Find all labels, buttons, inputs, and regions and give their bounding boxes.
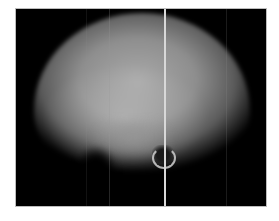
scan-artifact-line [109, 9, 110, 206]
scan-artifact-line [86, 9, 87, 206]
scan-artifact-line [226, 9, 227, 206]
scan-artifact-line-bright [164, 9, 166, 206]
radiograph-image [15, 8, 267, 207]
dark-cavity [76, 147, 116, 197]
